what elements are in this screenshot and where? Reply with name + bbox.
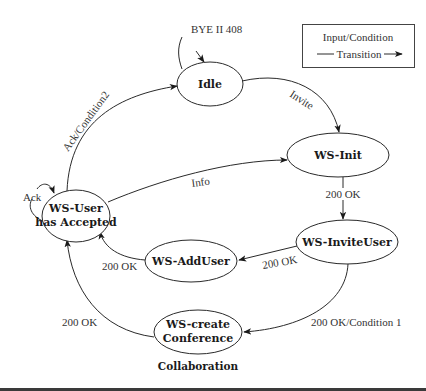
node-label: WS-AddUser — [151, 255, 230, 268]
edge-label-bye: BYE II 408 — [191, 23, 243, 35]
edge-label-invite: Invite — [288, 88, 316, 112]
node-ws-user-accepted: WS-User has Accepted — [35, 190, 117, 242]
edge-bye-arrow — [196, 51, 204, 62]
edge-label-info: Info — [191, 174, 211, 189]
edge-label-wsuser-200ok-a: 200 OK — [102, 260, 137, 272]
edge-label-init-200ok: 200 OK — [325, 188, 360, 200]
node-label: WS-Init — [313, 149, 363, 162]
edge-label-ack-condition2: Ack/Condition2 — [60, 89, 111, 153]
node-label-line1: WS-User — [48, 202, 103, 215]
node-ws-init: WS-Init — [287, 133, 389, 177]
node-ws-inviteuser: WS-InviteUser — [296, 220, 398, 264]
node-label: Idle — [198, 78, 222, 91]
node-label: WS-InviteUser — [301, 236, 392, 249]
legend: Input/Condition Transition — [303, 25, 415, 68]
edge-bye-line — [179, 37, 182, 69]
edge-ack-condition2 — [67, 86, 177, 191]
node-label-line1: WS-create — [165, 318, 230, 331]
diagram-caption: Collaboration — [158, 360, 239, 372]
node-label-line2: has Accepted — [35, 216, 117, 229]
legend-transition: Transition — [337, 48, 382, 60]
edge-label-wsuser-200ok-b: 200 OK — [62, 316, 97, 328]
edge-label-adduser-200ok: 200 OK — [261, 253, 298, 271]
node-idle: Idle — [177, 62, 243, 106]
node-label-line2: Conference — [163, 332, 233, 345]
legend-input-condition: Input/Condition — [323, 31, 394, 43]
state-diagram: Input/Condition Transition BYE II 408 In… — [0, 0, 426, 391]
edge-label-ack: Ack — [23, 191, 42, 203]
edge-label-condition1: 200 OK/Condition 1 — [311, 316, 401, 328]
edge-invite — [242, 78, 339, 132]
node-ws-adduser: WS-AddUser — [145, 240, 237, 282]
node-ws-create-conference: WS-create Conference — [154, 310, 242, 354]
edge-adduser-to-wsuser — [100, 232, 145, 260]
